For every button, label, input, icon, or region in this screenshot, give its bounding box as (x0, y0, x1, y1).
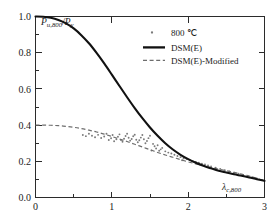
scatter-point (128, 137, 130, 139)
scatter-point (161, 147, 163, 149)
scatter-point (123, 138, 125, 140)
scatter-point (125, 135, 127, 137)
scatter-point (129, 140, 131, 142)
scatter-point (155, 148, 157, 150)
scatter-point (143, 138, 145, 140)
scatter-point (173, 154, 175, 156)
scatter-point (140, 137, 142, 139)
y-tick-label: 0.4 (19, 120, 32, 131)
scatter-point (91, 135, 93, 137)
scatter-point (113, 140, 115, 142)
scatter-point (106, 133, 108, 135)
legend-label-2: DSM(E)-Modified (171, 56, 239, 66)
scatter-point (154, 145, 156, 147)
scatter-point (160, 148, 162, 150)
legend-label-1: DSM(E) (171, 43, 202, 53)
y-tick-label: 1.0 (19, 11, 32, 22)
scatter-point (82, 134, 84, 136)
x-axis-title-sub: c,800 (226, 186, 242, 193)
scatter-point (122, 141, 124, 143)
legend-label-0: 800 ℃ (171, 28, 197, 38)
scatter-point (180, 156, 182, 158)
scatter-point (103, 136, 105, 138)
scatter-point (149, 135, 151, 137)
scatter-point (85, 135, 87, 137)
scatter-point (134, 134, 136, 136)
scatter-point (164, 150, 166, 152)
scatter-point (135, 139, 137, 141)
scatter-point (167, 152, 169, 154)
scatter-point (177, 155, 179, 157)
scatter-point (126, 133, 128, 135)
legend-marker-dot (151, 31, 153, 33)
scatter-point (132, 135, 134, 137)
chart-figure: 0.0 0.2 0.4 0.6 0.8 1.0 0 1 2 3 Pu,800/P… (0, 0, 275, 223)
scatter-point (138, 139, 140, 141)
scatter-point (157, 144, 159, 146)
scatter-point (141, 134, 143, 136)
y-tick-label: 0.2 (19, 156, 32, 167)
scatter-point (112, 134, 114, 136)
chart-svg: 0.0 0.2 0.4 0.6 0.8 1.0 0 1 2 3 Pu,800/P… (0, 0, 275, 223)
scatter-point (108, 139, 110, 141)
scatter-point (148, 137, 150, 139)
scatter-point (170, 153, 172, 155)
scatter-point (137, 141, 139, 143)
scatter-point (144, 142, 146, 144)
scatter-point (131, 138, 133, 140)
scatter-point (88, 133, 90, 135)
scatter-point (158, 150, 160, 152)
scatter-point (146, 140, 148, 142)
scatter-point (97, 134, 99, 136)
x-tick-label: 1 (109, 201, 114, 212)
x-tick-label: 2 (186, 201, 191, 212)
y-axis-title-sub1: u,800 (47, 21, 63, 28)
y-tick-label: 0.6 (19, 84, 32, 95)
y-tick-label: 0.8 (19, 47, 32, 58)
y-tick-label: 0.0 (19, 192, 32, 203)
scatter-point (94, 136, 96, 138)
scatter-point (119, 133, 121, 135)
scatter-point (110, 137, 112, 139)
scatter-point (100, 137, 102, 139)
scatter-point (152, 143, 154, 145)
scatter-point (117, 136, 119, 138)
x-tick-label: 0 (33, 201, 38, 212)
x-tick-label: 3 (262, 201, 267, 212)
